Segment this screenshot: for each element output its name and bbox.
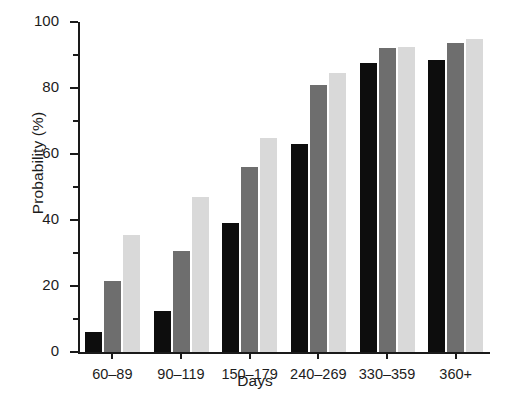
bar — [398, 47, 415, 352]
bar — [192, 197, 209, 352]
y-tick-label: 20 — [42, 276, 59, 293]
bar — [154, 311, 171, 352]
plot-area: 020406080100 60–8990–119150–179240–26933… — [78, 22, 490, 352]
bar — [329, 73, 346, 352]
y-tick-major: 100 — [70, 21, 78, 23]
bar — [466, 39, 483, 353]
y-tick-label: 100 — [34, 12, 59, 29]
bar — [291, 144, 308, 352]
y-tick-label: 60 — [42, 144, 59, 161]
bar — [241, 167, 258, 352]
y-tick-minor — [73, 318, 78, 320]
x-tick-label: 150–179 — [221, 366, 277, 382]
bar — [428, 60, 445, 352]
y-tick-major: 0 — [70, 351, 78, 353]
x-tick — [455, 352, 457, 359]
y-axis-line — [78, 22, 80, 353]
y-tick-minor — [73, 120, 78, 122]
x-tick — [317, 352, 319, 359]
bar — [123, 235, 140, 352]
bar — [447, 43, 464, 352]
x-tick — [180, 352, 182, 359]
x-axis-line — [78, 352, 490, 354]
x-tick — [249, 352, 251, 359]
x-tick-label: 330–359 — [359, 366, 415, 382]
x-tick-label: 240–269 — [290, 366, 346, 382]
y-tick-label: 0 — [51, 342, 59, 359]
bar — [260, 138, 277, 353]
y-tick-major: 80 — [70, 87, 78, 89]
y-tick-minor — [73, 54, 78, 56]
x-tick-label: 360+ — [439, 366, 472, 382]
y-tick-major: 40 — [70, 219, 78, 221]
y-tick-label: 40 — [42, 210, 59, 227]
y-tick-major: 20 — [70, 285, 78, 287]
y-tick-minor — [73, 186, 78, 188]
bar — [310, 85, 327, 352]
bar — [104, 281, 121, 352]
bar — [85, 332, 102, 352]
y-tick-major: 60 — [70, 153, 78, 155]
y-tick-minor — [73, 252, 78, 254]
bar — [222, 223, 239, 352]
bar — [173, 251, 190, 352]
x-tick — [386, 352, 388, 359]
bar-chart-figure: Probability (%) Days 020406080100 60–899… — [0, 0, 510, 409]
bar — [360, 63, 377, 352]
x-tick-label: 60–89 — [92, 366, 132, 382]
y-tick-label: 80 — [42, 78, 59, 95]
bar — [379, 48, 396, 352]
x-tick — [111, 352, 113, 359]
x-tick-label: 90–119 — [157, 366, 204, 382]
